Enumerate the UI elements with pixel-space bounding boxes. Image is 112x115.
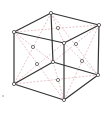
corner-atom-icon xyxy=(51,60,54,63)
face-center-atom-icon xyxy=(35,62,38,65)
cube-edge xyxy=(51,13,53,62)
corner-atom-icon xyxy=(96,73,99,76)
face-center-atom-icon xyxy=(74,42,77,45)
face-center-atoms xyxy=(31,26,83,81)
fcc-unit-cell-diagram xyxy=(0,0,112,115)
face-center-atom-icon xyxy=(56,26,59,29)
cube-edge xyxy=(98,25,99,75)
face-center-atom-icon xyxy=(80,59,83,62)
corner-atom-icon xyxy=(49,11,52,14)
corner-atom-icon xyxy=(12,82,15,85)
face-center-atom-icon xyxy=(31,45,34,48)
corner-atom-icon xyxy=(62,98,65,101)
cube-edge xyxy=(14,32,64,43)
stray-mark xyxy=(2,95,4,97)
corner-atom-icon xyxy=(97,23,100,26)
corner-atom-icon xyxy=(62,41,65,44)
face-center-atom-icon xyxy=(56,78,59,81)
cube-edge xyxy=(51,13,99,25)
face-diagonal xyxy=(14,32,64,100)
corner-atom-icon xyxy=(12,30,15,33)
cube-edge xyxy=(53,62,98,75)
cube-edge xyxy=(64,75,98,100)
cube-edge xyxy=(14,84,64,100)
